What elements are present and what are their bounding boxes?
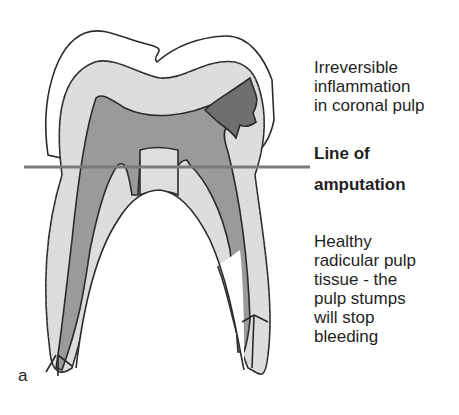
healthy-label-line-6: bleeding: [314, 327, 416, 346]
amputation-label-top: Line of: [314, 144, 370, 163]
healthy-label-line-3: tissue - the: [314, 270, 416, 289]
healthy-label-line-5: will stop: [314, 308, 416, 327]
panel-letter: a: [18, 366, 27, 385]
healthy-label-line-4: pulp stumps: [314, 289, 416, 308]
inflammation-label-line-2: inflammation: [314, 77, 425, 96]
inflammation-label: Irreversible inflammation in coronal pul…: [314, 58, 425, 115]
healthy-label-line-1: Healthy: [314, 232, 416, 251]
amputation-label-bottom: amputation: [314, 175, 406, 194]
inflammation-label-line-1: Irreversible: [314, 58, 425, 77]
healthy-label-line-2: radicular pulp: [314, 251, 416, 270]
furcation-septum: [140, 148, 178, 195]
inflammation-label-line-3: in coronal pulp: [314, 96, 425, 115]
tooth-diagram-figure: Irreversible inflammation in coronal pul…: [0, 0, 459, 415]
healthy-pulp-label: Healthy radicular pulp tissue - the pulp…: [314, 232, 416, 346]
